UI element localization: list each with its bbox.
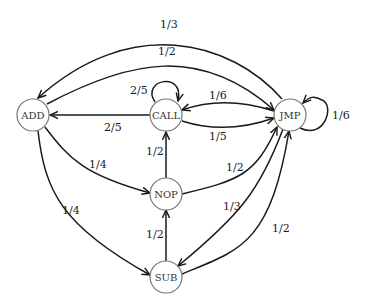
edge-call-to-jmp [182, 118, 274, 127]
node-add-label: ADD [20, 110, 44, 121]
edge-jmp-to-call [182, 103, 274, 111]
label-call-self: 2/5 [130, 84, 148, 97]
node-call-label: CALL [152, 110, 181, 121]
label-call-jmp: 1/5 [209, 130, 227, 143]
label-add-nop: 1/4 [89, 158, 107, 171]
node-jmp: JMP [274, 99, 306, 131]
label-nop-call: 1/2 [146, 145, 164, 158]
label-sub-jmp: 1/2 [272, 222, 290, 235]
edge-jmp-to-sub [178, 129, 283, 266]
label-nop-jmp: 1/2 [226, 161, 244, 174]
label-jmp-sub: 1/3 [223, 200, 241, 213]
node-nop: NOP [150, 178, 182, 210]
node-add: ADD [17, 99, 49, 131]
node-nop-label: NOP [154, 189, 178, 200]
label-jmp-self: 1/6 [332, 109, 350, 122]
label-call-add: 2/5 [104, 121, 122, 134]
label-jmp-call: 1/6 [209, 89, 227, 102]
node-sub: SUB [150, 261, 182, 293]
label-sub-nop: 1/2 [146, 228, 164, 241]
node-jmp-label: JMP [279, 110, 301, 121]
node-call: CALL [150, 99, 182, 131]
node-sub-label: SUB [155, 272, 178, 283]
label-add-jmp: 1/2 [158, 45, 176, 58]
label-jmp-add: 1/3 [160, 18, 178, 31]
edge-add-to-sub [38, 131, 150, 275]
label-add-sub: 1/4 [62, 204, 80, 217]
transition-diagram: 1/3 1/2 2/5 2/5 1/6 1/5 1/6 1/4 1/4 1/2 … [0, 0, 367, 302]
